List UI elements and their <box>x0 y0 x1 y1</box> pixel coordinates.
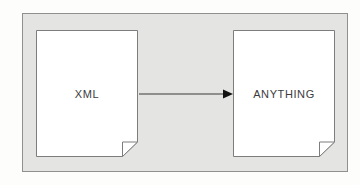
arrow-connector <box>138 86 233 102</box>
node-xml-document: XML <box>36 30 138 157</box>
node-anything-label: ANYTHING <box>233 30 335 157</box>
diagram-canvas: XML ANYTHING <box>0 0 360 185</box>
node-anything-document: ANYTHING <box>233 30 335 157</box>
node-xml-label: XML <box>36 30 138 157</box>
